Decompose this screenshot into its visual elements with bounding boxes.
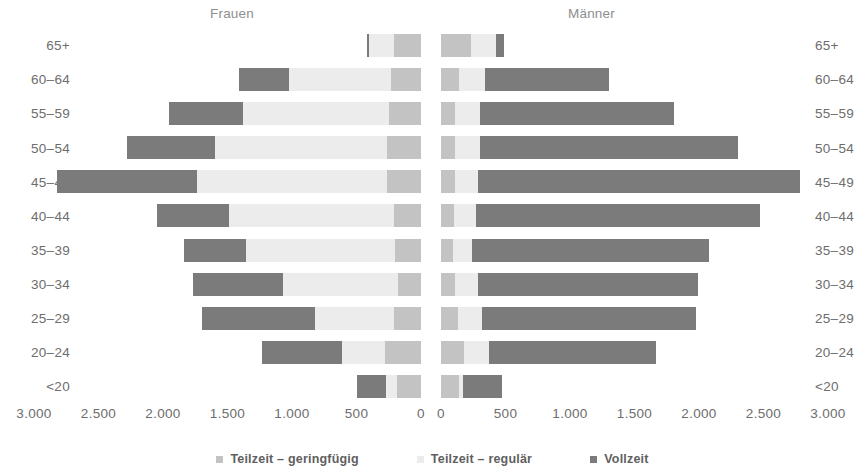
- bar-segment-geringfuegig: [441, 68, 459, 91]
- bar-segment-vollzeit: [357, 375, 387, 398]
- legend-label: Teilzeit – regulär: [431, 452, 532, 466]
- legend-item-vollzeit[interactable]: Vollzeit: [590, 452, 648, 466]
- bar-segment-vollzeit: [157, 204, 229, 227]
- category-label-left: 65+: [46, 38, 70, 53]
- chart-row: <20<20: [0, 371, 865, 402]
- legend-swatch-icon: [417, 456, 424, 463]
- bar-segment-regulaer: [315, 307, 394, 330]
- bar-segment-geringfuegig: [394, 204, 421, 227]
- bar-segment-regulaer: [459, 68, 485, 91]
- bar-segment-geringfuegig: [394, 34, 421, 57]
- bar-segment-regulaer: [455, 273, 478, 296]
- x-tick-left: 1.000: [274, 406, 309, 421]
- bar-segment-vollzeit: [472, 239, 709, 262]
- bar-maenner-35–39: [441, 239, 709, 262]
- chart-row: 60–6460–64: [0, 64, 865, 95]
- bar-segment-vollzeit: [202, 307, 316, 330]
- category-label-left: 30–34: [31, 276, 70, 291]
- bar-segment-regulaer: [246, 239, 396, 262]
- bar-frauen-45–49: [57, 170, 421, 193]
- bar-segment-regulaer: [289, 68, 391, 91]
- bar-frauen-35–39: [184, 239, 421, 262]
- bar-segment-vollzeit: [169, 102, 243, 125]
- bar-segment-regulaer: [453, 239, 472, 262]
- bar-maenner-65+: [441, 34, 504, 57]
- legend-item-geringfuegig[interactable]: Teilzeit – geringfügig: [216, 452, 358, 466]
- x-tick-right: 0: [437, 406, 445, 421]
- bar-segment-geringfuegig: [389, 102, 421, 125]
- x-tick-left: 500: [345, 406, 368, 421]
- x-tick-left: 2.000: [145, 406, 180, 421]
- bar-segment-vollzeit: [482, 307, 696, 330]
- bar-frauen-50–54: [127, 136, 421, 159]
- bar-frauen-40–44: [157, 204, 421, 227]
- bar-segment-regulaer: [243, 102, 389, 125]
- group-title-frauen: Frauen: [210, 6, 254, 21]
- category-label-left: 40–44: [31, 208, 70, 223]
- bar-segment-regulaer: [215, 136, 388, 159]
- bar-segment-vollzeit: [184, 239, 246, 262]
- bar-segment-vollzeit: [463, 375, 502, 398]
- bar-segment-vollzeit: [239, 68, 289, 91]
- legend-label: Teilzeit – geringfügig: [230, 452, 358, 466]
- bar-segment-regulaer: [229, 204, 394, 227]
- x-tick-right: 3.000: [810, 406, 845, 421]
- x-tick-left: 2.500: [81, 406, 116, 421]
- bar-segment-vollzeit: [496, 34, 504, 57]
- bar-segment-vollzeit: [480, 136, 738, 159]
- chart-row: 40–4440–44: [0, 200, 865, 231]
- bar-segment-geringfuegig: [398, 273, 421, 296]
- category-label-left: 50–54: [31, 140, 70, 155]
- group-title-maenner: Männer: [568, 6, 615, 21]
- category-label-right: 55–59: [815, 106, 854, 121]
- bar-segment-vollzeit: [485, 68, 609, 91]
- chart-row: 35–3935–39: [0, 235, 865, 266]
- bar-maenner-20–24: [441, 341, 656, 364]
- bar-maenner-55–59: [441, 102, 674, 125]
- bar-maenner-50–54: [441, 136, 738, 159]
- bar-segment-regulaer: [455, 102, 480, 125]
- chart-row: 30–3430–34: [0, 269, 865, 300]
- bar-segment-regulaer: [458, 307, 483, 330]
- category-label-right: 20–24: [815, 345, 854, 360]
- bar-segment-geringfuegig: [395, 239, 421, 262]
- bar-segment-vollzeit: [127, 136, 215, 159]
- bar-segment-regulaer: [283, 273, 398, 296]
- bar-segment-geringfuegig: [441, 239, 453, 262]
- category-label-right: 65+: [815, 38, 839, 53]
- bar-frauen-<20: [357, 375, 422, 398]
- chart-legend: Teilzeit – geringfügigTeilzeit – regulär…: [0, 448, 865, 470]
- legend-label: Vollzeit: [604, 452, 648, 466]
- bar-segment-vollzeit: [57, 170, 196, 193]
- bar-segment-geringfuegig: [387, 170, 421, 193]
- bar-segment-geringfuegig: [441, 34, 471, 57]
- bar-segment-regulaer: [386, 375, 396, 398]
- bar-segment-geringfuegig: [397, 375, 422, 398]
- bar-frauen-25–29: [202, 307, 421, 330]
- chart-row: 20–2420–24: [0, 337, 865, 368]
- bar-segment-geringfuegig: [385, 341, 421, 364]
- bar-frauen-30–34: [193, 273, 421, 296]
- bar-segment-regulaer: [455, 136, 480, 159]
- category-label-right: 40–44: [815, 208, 854, 223]
- category-label-right: 60–64: [815, 72, 854, 87]
- chart-row: 25–2925–29: [0, 303, 865, 334]
- bar-segment-vollzeit: [489, 341, 657, 364]
- x-tick-right: 1.500: [617, 406, 652, 421]
- category-label-left: 35–39: [31, 242, 70, 257]
- category-label-left: 60–64: [31, 72, 70, 87]
- chart-row: 50–5450–54: [0, 132, 865, 163]
- bar-segment-vollzeit: [262, 341, 342, 364]
- bar-segment-geringfuegig: [441, 136, 455, 159]
- bar-segment-vollzeit: [478, 170, 799, 193]
- category-label-right: 50–54: [815, 140, 854, 155]
- bar-segment-regulaer: [455, 170, 478, 193]
- bar-segment-geringfuegig: [441, 102, 455, 125]
- bar-segment-regulaer: [464, 341, 489, 364]
- x-tick-right: 1.000: [552, 406, 587, 421]
- legend-item-regulaer[interactable]: Teilzeit – regulär: [417, 452, 532, 466]
- bar-segment-regulaer: [342, 341, 385, 364]
- chart-row: 55–5955–59: [0, 98, 865, 129]
- category-label-right: <20: [815, 379, 839, 394]
- category-label-left: <20: [46, 379, 70, 394]
